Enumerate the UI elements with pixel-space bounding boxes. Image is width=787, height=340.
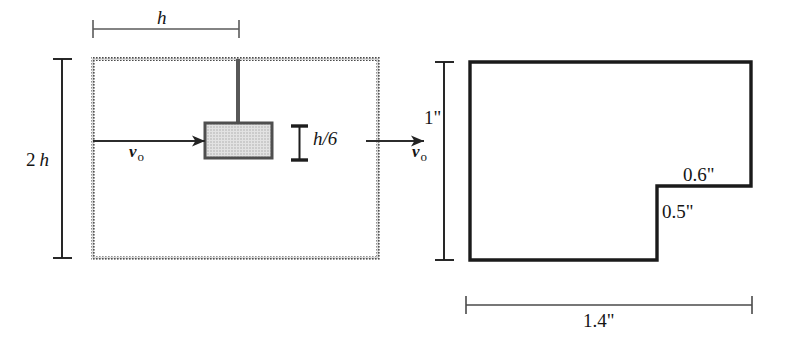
dimension-line-1in xyxy=(435,62,454,260)
dimension-marker-h-over-6 xyxy=(291,126,308,160)
label-outlet-velocity: vo xyxy=(412,143,427,163)
label-inlet-velocity-subscript: o xyxy=(137,149,145,164)
label-outlet-velocity-symbol: v xyxy=(412,142,420,161)
label-step-width-0_6in: 0.6" xyxy=(683,165,715,184)
label-height-2h: 2h xyxy=(26,150,49,169)
label-overall-height-1in: 1" xyxy=(424,108,441,127)
l-shaped-cross-section-outline xyxy=(470,62,751,260)
figure-canvas xyxy=(0,0,787,340)
label-height-2h-variable: h xyxy=(36,149,50,170)
label-plate-height-h-over-6: h/6 xyxy=(313,129,337,148)
flat-plate-block xyxy=(205,123,272,158)
dimension-line-2h xyxy=(53,59,72,258)
label-overall-width-1_4in: 1.4" xyxy=(583,311,615,330)
label-height-2h-number: 2 xyxy=(26,149,36,170)
technical-figure: h 2h h/6 vo vo 1" 0.6" 0.5" 1.4" xyxy=(0,0,787,340)
label-step-height-0_5in: 0.5" xyxy=(662,202,694,221)
label-outlet-velocity-subscript: o xyxy=(420,149,428,164)
label-width-h: h xyxy=(157,8,167,27)
label-inlet-velocity-symbol: v xyxy=(129,142,137,161)
label-inlet-velocity: vo xyxy=(129,143,144,163)
